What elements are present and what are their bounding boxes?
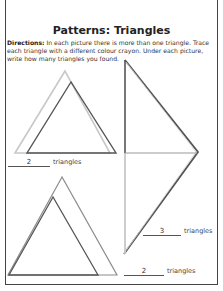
answer-blank-2[interactable]: 3: [143, 228, 181, 236]
picture-2-triangles: [124, 60, 198, 254]
answer-picture-1: 2triangles: [8, 158, 81, 167]
answer-blank-1[interactable]: 2: [8, 159, 50, 167]
triangle-figures: [0, 0, 223, 291]
answer-unit-1: triangles: [53, 158, 81, 166]
answer-unit-2: triangles: [184, 227, 212, 235]
answer-blank-3[interactable]: 2: [124, 268, 164, 276]
answer-unit-3: triangles: [167, 267, 195, 275]
picture-3-triangles: [8, 177, 117, 275]
answer-picture-3: 2triangles: [124, 267, 195, 276]
answer-picture-2: 3triangles: [143, 227, 212, 236]
picture-1-triangles: [15, 71, 116, 153]
